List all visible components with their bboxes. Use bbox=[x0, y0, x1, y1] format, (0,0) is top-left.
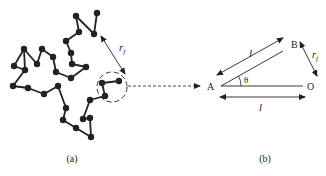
chain-monomer bbox=[11, 63, 17, 69]
angle-theta-label: θ bbox=[244, 75, 248, 85]
chain-monomer bbox=[10, 83, 16, 89]
chain-monomer bbox=[53, 69, 59, 75]
caption-b: (b) bbox=[259, 153, 271, 165]
chain-monomer bbox=[68, 50, 74, 56]
chain-monomer bbox=[41, 91, 47, 97]
chain-monomer bbox=[22, 67, 28, 73]
chain-monomer bbox=[99, 80, 105, 86]
caption-a: (a) bbox=[66, 153, 77, 165]
chain-monomer bbox=[80, 116, 86, 122]
chain-monomer bbox=[94, 10, 100, 16]
bond-length-label-bottom: l bbox=[259, 101, 262, 113]
chain-monomer bbox=[63, 38, 69, 44]
angle-arc bbox=[239, 76, 242, 86]
bond-length-label-top: l bbox=[249, 47, 252, 59]
chain-monomer bbox=[73, 125, 79, 131]
chain-monomer bbox=[83, 64, 89, 70]
figure-canvas: rf (a) A B O θ l l rf (b) bbox=[0, 0, 326, 176]
chain-monomer bbox=[25, 85, 31, 91]
chain-bond bbox=[58, 86, 66, 108]
chain-monomer bbox=[68, 75, 74, 81]
chain-monomer bbox=[55, 83, 61, 89]
chain-monomer bbox=[34, 61, 40, 67]
chain-monomer bbox=[50, 54, 56, 60]
chain-monomer bbox=[63, 105, 69, 111]
chain-monomer bbox=[73, 13, 79, 19]
chain-monomer bbox=[39, 46, 45, 52]
chain-monomer bbox=[69, 61, 75, 67]
chain-monomers bbox=[10, 10, 122, 140]
panel-b: A B O θ l l rf (b) bbox=[207, 38, 319, 165]
panel-a: rf (a) bbox=[10, 10, 127, 165]
point-o-label: O bbox=[307, 81, 314, 92]
end-region-circle bbox=[97, 72, 127, 102]
chain-monomer bbox=[76, 29, 82, 35]
point-a-label: A bbox=[207, 81, 215, 92]
rf-label-b: rf bbox=[312, 49, 319, 63]
chain-monomer bbox=[87, 97, 93, 103]
chain-monomer bbox=[91, 31, 97, 37]
point-b-label: B bbox=[291, 39, 298, 50]
chain-monomer bbox=[60, 117, 66, 123]
chain-monomer bbox=[116, 78, 122, 84]
rf-label-a: rf bbox=[119, 41, 126, 56]
chain-monomer bbox=[87, 115, 93, 121]
chain-monomer bbox=[88, 134, 94, 140]
chain-monomer bbox=[21, 46, 27, 52]
